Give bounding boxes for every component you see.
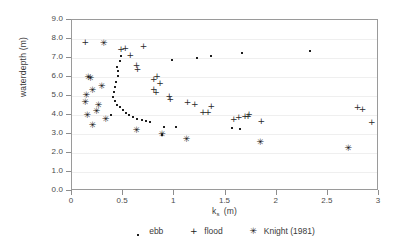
y-axis-tick-label: 4.0: [23, 109, 63, 118]
x-axis-tick-label: 2.5: [312, 196, 342, 205]
legend-item[interactable]: +flood: [189, 226, 222, 236]
y-axis-tick: [66, 114, 71, 115]
x-axis-tick: [71, 190, 72, 195]
y-axis-tick-label: 5.0: [23, 90, 63, 99]
data-point-ebb: [141, 119, 143, 121]
x-axis-tick: [276, 190, 277, 195]
y-axis-title-text: waterdepth (m): [18, 37, 28, 97]
y-axis-tick-label: 7.0: [23, 52, 63, 61]
data-point-ebb: [309, 50, 311, 52]
y-axis-tick: [66, 171, 71, 172]
data-point-knight-1981: ✳: [99, 39, 109, 49]
data-point-knight-1981: ✳: [131, 126, 141, 136]
x-axis-tick: [122, 190, 123, 195]
y-axis-tick: [66, 152, 71, 153]
data-point-ebb: [210, 55, 212, 57]
y-axis-tick: [66, 57, 71, 58]
x-axis-tick-label: 2: [261, 196, 291, 205]
data-point-flood: +: [132, 65, 142, 75]
data-point-ebb: [149, 121, 151, 123]
y-axis-tick: [66, 95, 71, 96]
legend-item[interactable]: ebb: [134, 226, 163, 236]
y-axis-tick-label: 2.0: [23, 147, 63, 156]
legend-marker-star-icon: ✳: [249, 227, 258, 236]
data-point-ebb: [113, 91, 115, 93]
data-point-flood: +: [203, 108, 213, 118]
data-point-ebb: [119, 60, 121, 62]
data-point-knight-1981: ✳: [182, 135, 192, 145]
data-point-ebb: [239, 128, 241, 130]
y-axis-tick: [66, 38, 71, 39]
data-point-ebb: [122, 109, 124, 111]
data-point-ebb: [116, 66, 118, 68]
y-axis-tick-label: 0.0: [23, 185, 63, 194]
data-point-flood: +: [243, 112, 253, 122]
data-point-ebb: [163, 126, 165, 128]
data-point-ebb: [231, 127, 233, 129]
x-axis-tick: [378, 190, 379, 195]
data-point-ebb: [125, 112, 127, 114]
data-point-ebb: [196, 57, 198, 59]
x-axis-tick-label: 1.5: [210, 196, 240, 205]
data-point-knight-1981: ✳: [80, 98, 90, 108]
x-axis-tick-label: 0.5: [107, 196, 137, 205]
x-axis-tick: [173, 190, 174, 195]
data-point-ebb: [117, 70, 119, 72]
data-point-flood: +: [165, 95, 175, 105]
data-point-ebb: [132, 116, 134, 118]
data-point-ebb: [136, 118, 138, 120]
scatter-chart-figure: waterdepth (m) +++++++++++++++++++++++++…: [0, 0, 403, 250]
data-point-knight-1981: ✳: [255, 138, 265, 148]
chart-legend: ebb+flood✳Knight (1981): [71, 226, 378, 236]
y-axis-tick: [66, 76, 71, 77]
x-axis-title: ks(m): [71, 206, 378, 217]
data-point-flood: +: [151, 88, 161, 98]
legend-label: Knight (1981): [264, 226, 315, 236]
y-axis-tick: [66, 19, 71, 20]
x-axis-tick: [327, 190, 328, 195]
y-axis-tick-label: 6.0: [23, 71, 63, 80]
data-point-knight-1981: ✳: [343, 144, 353, 154]
legend-label: flood: [204, 226, 222, 236]
x-axis-tick-label: 3: [363, 196, 393, 205]
y-axis-tick-label: 8.0: [23, 33, 63, 42]
data-point-knight-1981: ✳: [157, 130, 167, 140]
data-point-knight-1981: ✳: [97, 82, 107, 92]
data-point-ebb: [114, 86, 116, 88]
x-axis-title-subscript: s: [216, 211, 219, 217]
data-point-ebb: [117, 75, 119, 77]
x-axis-tick-label: 1: [158, 196, 188, 205]
data-point-flood: +: [80, 38, 90, 48]
data-point-knight-1981: ✳: [87, 121, 97, 131]
data-point-ebb: [116, 104, 118, 106]
data-point-ebb: [175, 126, 177, 128]
data-point-flood: +: [367, 118, 377, 128]
y-axis-tick: [66, 133, 71, 134]
data-point-flood: +: [358, 105, 368, 115]
y-axis-tick-label: 3.0: [23, 128, 63, 137]
data-point-knight-1981: ✳: [94, 101, 104, 111]
data-point-ebb: [115, 81, 117, 83]
data-point-ebb: [241, 52, 243, 54]
plot-area: ++++++++++++++++++++++++++++✳✳✳✳✳✳✳✳✳✳✳✳…: [71, 19, 378, 190]
x-axis-tick-label: 0: [56, 196, 86, 205]
data-point-ebb: [120, 55, 122, 57]
data-point-ebb: [145, 120, 147, 122]
y-axis-tick-label: 1.0: [23, 166, 63, 175]
data-point-ebb: [171, 59, 173, 61]
y-axis-tick-label: 9.0: [23, 14, 63, 23]
x-axis-tick: [225, 190, 226, 195]
legend-marker-plus-icon: +: [189, 227, 198, 236]
data-point-ebb: [112, 96, 114, 98]
legend-label: ebb: [149, 226, 163, 236]
data-point-ebb: [128, 114, 130, 116]
legend-item[interactable]: ✳Knight (1981): [249, 226, 315, 236]
data-points-layer: ++++++++++++++++++++++++++++✳✳✳✳✳✳✳✳✳✳✳✳…: [72, 20, 377, 189]
data-point-ebb: [119, 106, 121, 108]
data-point-flood: +: [139, 42, 149, 52]
x-axis-title-unit: (m): [224, 206, 237, 216]
data-point-flood: +: [256, 117, 266, 127]
data-point-knight-1981: ✳: [101, 115, 111, 125]
data-point-ebb: [114, 100, 116, 102]
data-point-knight-1981: ✳: [85, 74, 95, 84]
